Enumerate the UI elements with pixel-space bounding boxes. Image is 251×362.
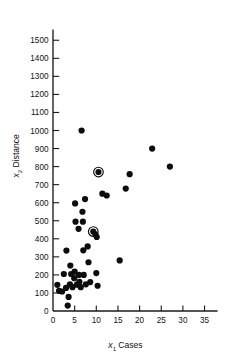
x-tick-label: 20 (135, 316, 145, 325)
y-tick-label: 300 (35, 253, 49, 262)
data-point (76, 279, 82, 285)
data-point (80, 219, 86, 225)
x-axis-title-text: Cases (118, 340, 142, 350)
data-point (94, 234, 100, 240)
scatter-plot-figure: 0100200300400500600700800900100011001200… (0, 0, 251, 362)
y-axis-tick-labels: 0100200300400500600700800900100011001200… (30, 36, 49, 316)
x-axis-title: x1 Cases (0, 341, 251, 353)
data-point (94, 283, 100, 289)
data-point (61, 271, 67, 277)
y-tick-label: 500 (35, 217, 49, 226)
data-point (78, 284, 84, 290)
y-tick-label: 1000 (30, 127, 49, 136)
data-point (123, 186, 129, 192)
data-point (167, 164, 173, 170)
y-tick-label: 200 (35, 271, 49, 280)
y-axis-title-text: Distance (11, 134, 21, 167)
data-point (85, 259, 91, 265)
plot-canvas: 0100200300400500600700800900100011001200… (0, 0, 251, 362)
data-point (72, 200, 78, 206)
y-axis-title-subscript: 2 (17, 170, 23, 173)
data-point (67, 262, 73, 268)
y-tick-label: 700 (35, 181, 49, 190)
x-tick-label: 25 (157, 316, 167, 325)
data-point (127, 171, 133, 177)
data-point (82, 196, 88, 202)
data-point (63, 247, 69, 253)
axis-lines (53, 29, 218, 311)
y-axis-title: x2 Distance (12, 106, 24, 206)
x-tick-label: 30 (178, 316, 188, 325)
data-point (54, 282, 60, 288)
y-tick-label: 1200 (30, 90, 49, 99)
data-point (65, 294, 71, 300)
data-point (117, 257, 123, 263)
data-point (93, 270, 99, 276)
x-tick-label: 0 (51, 316, 56, 325)
x-tick-label: 10 (92, 316, 102, 325)
data-point (79, 209, 85, 215)
y-tick-label: 600 (35, 199, 49, 208)
y-tick-label: 1500 (30, 36, 49, 45)
data-point (104, 192, 110, 198)
data-point (87, 279, 93, 285)
y-tick-label: 1400 (30, 54, 49, 63)
data-points-layer (54, 127, 173, 308)
data-point (75, 226, 81, 232)
y-tick-label: 1100 (31, 108, 49, 117)
y-tick-label: 0 (44, 307, 49, 316)
y-tick-label: 400 (35, 235, 49, 244)
data-point (149, 145, 155, 151)
data-point (85, 243, 91, 249)
y-tick-label: 1300 (30, 72, 49, 81)
y-tick-label: 100 (35, 289, 49, 298)
x-tick-label: 35 (200, 316, 210, 325)
data-point (72, 219, 78, 225)
x-tick-label: 5 (72, 316, 77, 325)
y-tick-label: 900 (35, 145, 49, 154)
x-axis-title-subscript: 1 (113, 346, 116, 352)
data-point-highlighted (95, 169, 101, 175)
data-point (81, 272, 87, 278)
x-axis-tick-labels: 05101520253035 (51, 316, 210, 325)
y-axis-title-variable: x (11, 173, 21, 177)
y-tick-label: 800 (35, 163, 49, 172)
data-point (78, 127, 84, 133)
x-tick-label: 15 (113, 316, 123, 325)
data-point (65, 302, 71, 308)
